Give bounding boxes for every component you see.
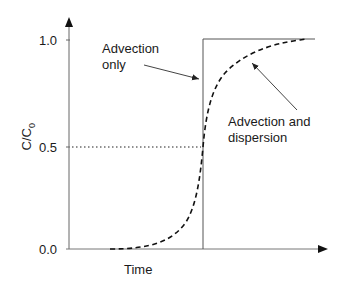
y-tick-label-0: 0.0	[39, 242, 57, 257]
y-axis-label-subscript: 0	[27, 123, 37, 128]
y-axis-label: C/C0	[19, 123, 37, 150]
y-tick-label-05: 0.5	[39, 140, 57, 155]
annotation-advection-only-line1: Advection	[102, 41, 159, 56]
y-axis-arrow-icon	[65, 17, 73, 27]
x-axis-arrow-icon	[318, 245, 328, 253]
y-tick-label-1: 1.0	[39, 33, 57, 48]
advection-only-arrow	[144, 65, 199, 79]
advection-dispersion-arrow	[252, 63, 297, 110]
y-axis-label-main: C/C	[19, 128, 34, 150]
annotation-advection-dispersion-line2: dispersion	[228, 130, 287, 145]
annotation-advection-only-line2: only	[102, 57, 126, 72]
x-axis-label: Time	[124, 262, 152, 277]
annotation-advection-dispersion-line1: Advection and	[228, 114, 310, 129]
